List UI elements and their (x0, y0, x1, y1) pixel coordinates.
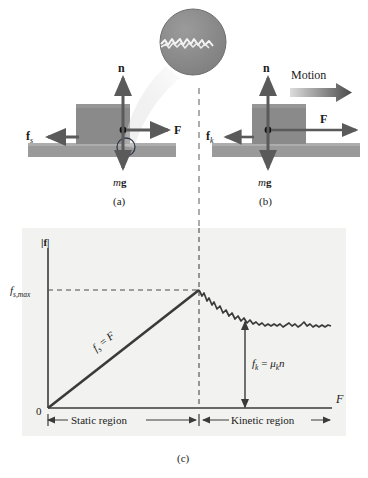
applied-force-label-b: F (320, 112, 327, 126)
panel-b: n mg F fk Motion (b) (206, 61, 360, 208)
origin-label: 0 (36, 405, 42, 417)
magnifier-connector-a (123, 66, 180, 148)
weight-label-b: mg (258, 176, 272, 188)
applied-force-label-a: F (174, 123, 181, 137)
panel-c-caption: (c) (177, 452, 190, 465)
surface-contact-inset (160, 9, 226, 75)
static-region-label: Static region (71, 414, 127, 426)
chart-background (22, 228, 346, 436)
normal-force-label-a: n (118, 61, 125, 75)
kinetic-region-label: Kinetic region (231, 414, 295, 426)
panel-a: n mg F fs (a) (26, 9, 226, 208)
friction-figure: n mg F fs (a) n mg F fk (0, 0, 368, 478)
normal-force-label-b: n (263, 61, 270, 75)
x-axis-label: F (335, 392, 344, 406)
kinetic-friction-label-b: fk (206, 129, 214, 145)
static-friction-label-a: fs (26, 129, 33, 145)
panel-a-caption: (a) (113, 195, 126, 208)
panel-b-caption: (b) (259, 195, 272, 208)
block-b (252, 104, 306, 144)
panel-c-chart: |f| F 0 fs,max fk = μkn fs = F Static re… (10, 228, 346, 465)
motion-arrow-b (290, 83, 352, 102)
weight-label-a: mg (113, 176, 127, 188)
motion-label-b: Motion (291, 68, 326, 82)
y-axis-label: |f| (41, 236, 50, 248)
